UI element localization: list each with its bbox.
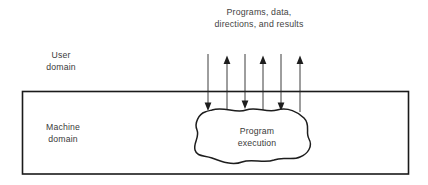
arrow-up-2	[260, 56, 267, 116]
system-domains-diagram: Programs, data, directions, and results …	[0, 0, 428, 185]
arrow-down-3	[278, 54, 285, 111]
user-domain-label-line-1: User	[52, 50, 71, 60]
user-domain-label-line-2: domain	[46, 62, 75, 72]
arrow-up-1	[224, 56, 231, 111]
caption-line-1: Programs, data,	[227, 7, 292, 17]
machine-domain-label-line-2: domain	[48, 134, 77, 144]
process-label-line-2: execution	[238, 138, 277, 148]
diagram-canvas-container: Programs, data, directions, and results …	[0, 0, 428, 185]
program-execution-cloud	[195, 109, 311, 164]
machine-domain-label-line-1: Machine	[46, 122, 80, 132]
arrow-down-1	[205, 54, 212, 111]
arrow-up-3	[297, 56, 304, 113]
arrow-down-2	[242, 54, 249, 109]
caption-line-2: directions, and results	[214, 19, 303, 29]
process-label-line-1: Program	[240, 126, 274, 136]
